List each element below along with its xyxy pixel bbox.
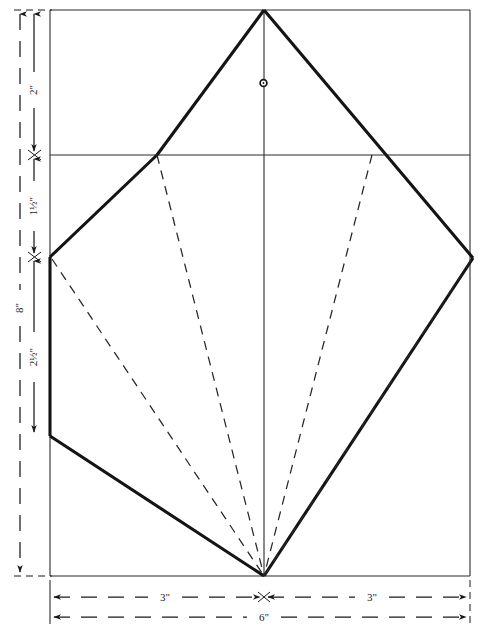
dimension-horizontal-3in-right: 3" <box>268 591 466 603</box>
dim-label-overall-width: 6" <box>259 611 269 623</box>
fold-lines-group <box>52 155 471 576</box>
fold-line-inner-left <box>157 155 264 576</box>
edge-top-left <box>157 10 264 155</box>
spar-hole-center-dot <box>263 82 265 84</box>
fold-line-outer-left <box>52 259 264 576</box>
kite-pattern-drawing: 8" 2" 1½" 2½" <box>0 0 487 635</box>
dimension-vertical-1half-in: 1½" <box>27 159 39 253</box>
kite-outline <box>50 10 473 576</box>
fold-line-inner-right <box>264 155 372 576</box>
dim-label-2in: 2" <box>27 85 39 95</box>
dimension-vertical-2half-in: 2½" <box>27 261 39 432</box>
dim-label-2half-in: 2½" <box>27 348 39 366</box>
dim-label-3in-right: 3" <box>367 591 377 603</box>
dimension-horizontal-3in-left: 3" <box>54 591 260 603</box>
construction-rectangle <box>50 10 470 576</box>
dim-label-overall-height: 8" <box>13 303 25 313</box>
edge-upper-left <box>50 155 157 257</box>
edge-upper-right <box>264 10 473 258</box>
edge-lower-left <box>50 436 264 576</box>
technical-drawing-page: 8" 2" 1½" 2½" <box>0 0 487 635</box>
dim-label-1half-in: 1½" <box>27 197 39 215</box>
dim-label-3in-left: 3" <box>160 591 170 603</box>
dimension-horizontal-overall: 6" <box>54 611 466 623</box>
spar-hole-icon <box>260 80 267 87</box>
dimension-vertical-2in: 2" <box>27 14 39 151</box>
